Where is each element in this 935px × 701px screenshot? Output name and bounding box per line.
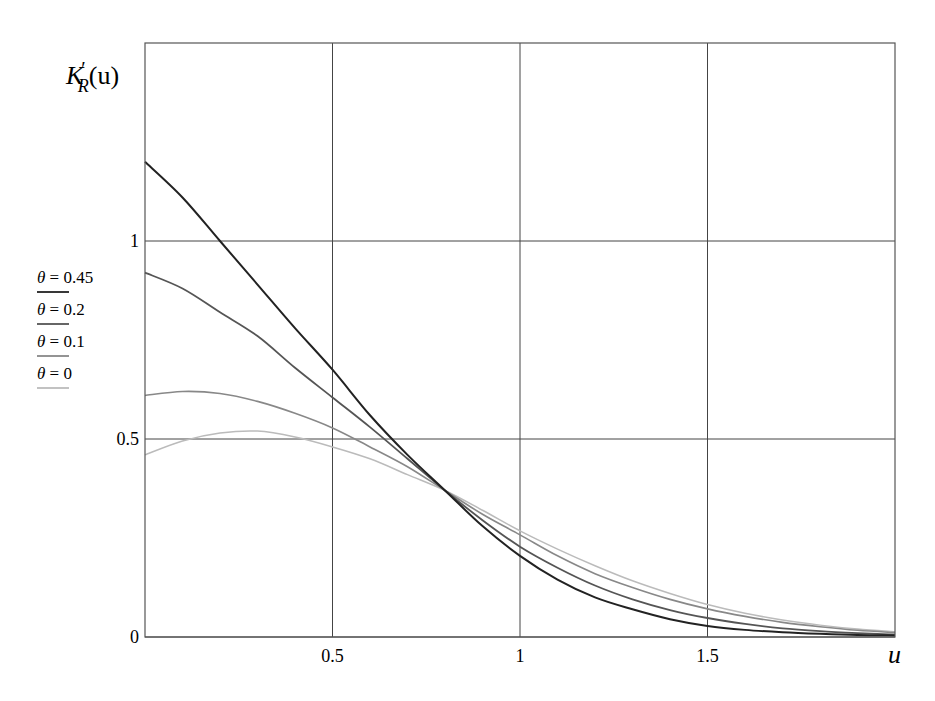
- legend-item: θ = 0: [37, 364, 72, 383]
- legend: θ = 0.45θ = 0.2θ = 0.1θ = 0: [37, 268, 93, 388]
- x-tick-labels: 0.511.5: [321, 646, 719, 666]
- legend-item: θ = 0.1: [37, 332, 85, 351]
- y-tick-label: 0: [130, 627, 139, 647]
- chart: 0.511.5 00.51 K′R(u) u θ = 0.45θ = 0.2θ …: [0, 0, 935, 701]
- x-tick-label: 0.5: [321, 646, 344, 666]
- x-tick-label: 1: [516, 646, 525, 666]
- y-axis-label: K′R(u): [65, 58, 119, 96]
- x-axis-label: u: [888, 640, 901, 669]
- y-tick-label: 0.5: [117, 429, 140, 449]
- x-tick-label: 1.5: [696, 646, 719, 666]
- y-tick-labels: 00.51: [117, 231, 140, 647]
- legend-item: θ = 0.2: [37, 300, 85, 319]
- legend-item: θ = 0.45: [37, 268, 93, 287]
- y-tick-label: 1: [130, 231, 139, 251]
- grid-lines: [145, 43, 895, 637]
